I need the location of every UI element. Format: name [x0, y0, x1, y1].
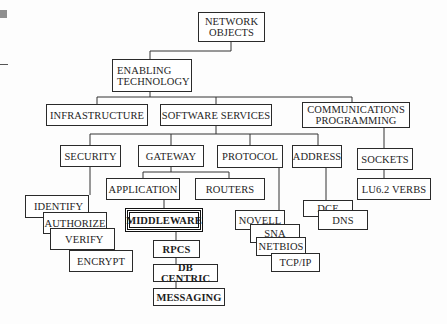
node-label: COMMUNICATIONS: [307, 104, 405, 115]
node-label: PROGRAMMING: [315, 115, 396, 126]
node-label: OBJECTS: [209, 27, 254, 38]
node-dns: DNS: [318, 210, 368, 230]
node-gateway: GATEWAY: [138, 145, 204, 167]
network-objects-diagram: NETWORK OBJECTS ENABLING TECHNOLOGY INFR…: [0, 0, 447, 324]
node-lu62-verbs: LU6.2 VERBS: [357, 178, 431, 200]
node-label: ENABLING: [117, 65, 171, 76]
node-infrastructure: INFRASTRUCTURE: [46, 104, 148, 126]
node-db-centric: DB CENTRIC: [153, 264, 218, 282]
node-messaging: MESSAGING: [153, 288, 225, 306]
node-label: TECHNOLOGY: [117, 76, 190, 87]
node-application: APPLICATION: [106, 178, 180, 200]
node-routers: ROUTERS: [195, 178, 265, 200]
node-communications-programming: COMMUNICATIONS PROGRAMMING: [302, 102, 410, 128]
node-sockets: SOCKETS: [357, 148, 413, 170]
node-rpcs: RPCS: [153, 240, 200, 258]
node-label: NETWORK: [205, 16, 258, 27]
node-enabling-technology: ENABLING TECHNOLOGY: [112, 59, 192, 92]
node-encrypt: ENCRYPT: [69, 250, 133, 272]
node-tcpip: TCP/IP: [271, 253, 320, 272]
node-address: ADDRESS: [292, 145, 342, 168]
node-network-objects: NETWORK OBJECTS: [198, 12, 265, 42]
node-verify: VERIFY: [50, 228, 115, 250]
node-middleware: MIDDLEWARE: [125, 208, 203, 232]
node-security: SECURITY: [60, 145, 121, 167]
node-software-services: SOFTWARE SERVICES: [160, 104, 272, 126]
node-protocol: PROTOCOL: [217, 145, 283, 168]
